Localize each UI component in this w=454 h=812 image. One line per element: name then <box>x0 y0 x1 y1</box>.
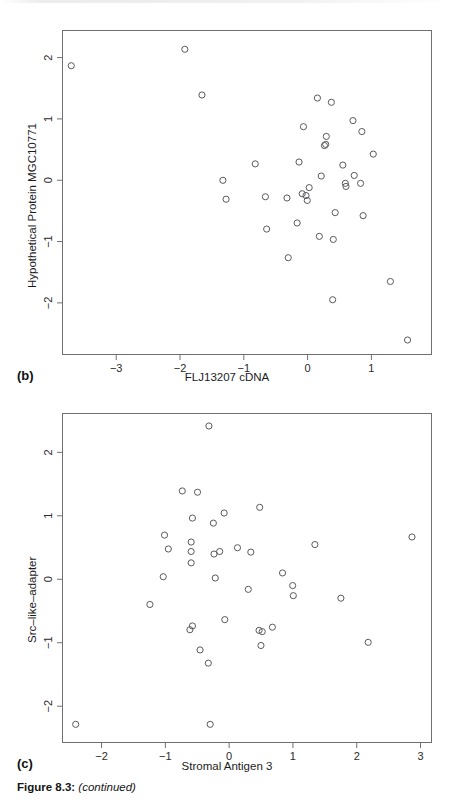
data-point <box>306 185 312 191</box>
y-axis-title-c: Src–like–adapter <box>26 557 38 643</box>
data-point <box>360 213 366 219</box>
data-point <box>197 647 203 653</box>
data-point <box>332 210 338 216</box>
data-point <box>223 196 229 202</box>
data-point <box>234 545 240 551</box>
data-point <box>262 194 268 200</box>
y-tick-label: 1 <box>42 116 54 122</box>
data-point <box>182 46 188 52</box>
data-point <box>342 180 348 186</box>
y-tick-label: 0 <box>42 177 54 183</box>
data-point <box>189 623 195 629</box>
data-point <box>68 63 74 69</box>
scatter-points-b <box>63 31 431 354</box>
panel-label-c: (c) <box>17 756 33 771</box>
y-tick-label: −2 <box>42 700 54 713</box>
x-axis-title-c: Stromal Antigen 3 <box>0 760 454 772</box>
data-point <box>258 642 264 648</box>
data-point <box>318 173 324 179</box>
y-axis-c: −2−1012 <box>36 413 62 743</box>
data-point <box>207 721 213 727</box>
data-point <box>340 162 346 168</box>
figure-caption: Figure 8.3: (continued) <box>17 781 136 793</box>
data-point <box>359 128 365 134</box>
data-point <box>323 141 329 147</box>
data-point <box>160 574 166 580</box>
figure-caption-rest: (continued) <box>78 781 136 793</box>
data-point <box>220 177 226 183</box>
data-point <box>314 95 320 101</box>
data-point <box>290 593 296 599</box>
data-point <box>294 220 300 226</box>
data-point <box>351 172 357 178</box>
data-point <box>73 721 79 727</box>
data-point <box>221 510 227 516</box>
data-point <box>299 191 305 197</box>
data-point <box>188 539 194 545</box>
data-point <box>269 624 275 630</box>
data-point <box>147 601 153 607</box>
data-point <box>387 278 393 284</box>
y-tick-label: −1 <box>42 235 54 248</box>
data-point <box>284 195 290 201</box>
data-point <box>161 532 167 538</box>
data-point <box>188 560 194 566</box>
panel-label-b: (b) <box>17 368 34 383</box>
data-point <box>206 423 212 429</box>
data-point <box>338 595 344 601</box>
scatter-points-c <box>63 414 431 742</box>
data-point <box>257 504 263 510</box>
data-point <box>217 548 223 554</box>
data-point <box>404 337 410 343</box>
data-point <box>187 627 193 633</box>
data-point <box>210 520 216 526</box>
y-tick-label: −1 <box>42 636 54 649</box>
data-point <box>323 133 329 139</box>
data-point <box>343 183 349 189</box>
data-point <box>179 488 185 494</box>
plot-area-c <box>62 413 432 743</box>
data-point <box>279 570 285 576</box>
data-point <box>328 99 334 105</box>
data-point <box>409 534 415 540</box>
data-point <box>188 548 194 554</box>
y-tick-label: −2 <box>42 297 54 310</box>
y-tick-label: 2 <box>42 449 54 455</box>
figure-panel-b: −3−2−101 −2−1012 FLJ13207 cDNA Hypotheti… <box>0 0 454 400</box>
data-point <box>330 236 336 242</box>
data-point <box>194 489 200 495</box>
data-point <box>205 660 211 666</box>
data-point <box>264 226 270 232</box>
data-point <box>300 124 306 130</box>
x-axis-title-b: FLJ13207 cDNA <box>0 371 454 383</box>
data-point <box>189 515 195 521</box>
y-axis-b: −2−1012 <box>36 30 62 355</box>
data-point <box>312 541 318 547</box>
y-axis-title-b: Hypothetical Protein MGC10771 <box>26 123 38 288</box>
figure-caption-prefix: Figure 8.3: <box>17 781 75 793</box>
y-tick-label: 1 <box>42 513 54 519</box>
data-point <box>321 142 327 148</box>
data-point <box>296 159 302 165</box>
y-tick-label: 0 <box>42 576 54 582</box>
figure-panel-c: −2−10123 −2−1012 Stromal Antigen 3 Src–l… <box>0 400 454 812</box>
plot-area-b <box>62 30 432 355</box>
data-point <box>211 551 217 557</box>
data-point <box>256 627 262 633</box>
data-point <box>316 233 322 239</box>
data-point <box>330 297 336 303</box>
data-point <box>357 180 363 186</box>
y-tick-label: 2 <box>42 55 54 61</box>
data-point <box>290 582 296 588</box>
data-point <box>199 92 205 98</box>
data-point <box>212 575 218 581</box>
data-point <box>370 151 376 157</box>
data-point <box>259 629 265 635</box>
data-point <box>365 639 371 645</box>
data-point <box>248 549 254 555</box>
data-point <box>303 192 309 198</box>
data-point <box>304 197 310 203</box>
data-point <box>350 118 356 124</box>
data-point <box>252 161 258 167</box>
data-point <box>245 586 251 592</box>
